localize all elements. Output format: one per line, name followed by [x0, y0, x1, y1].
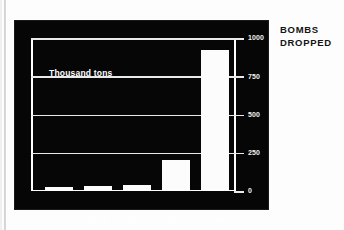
tick-stub-750 — [234, 76, 244, 78]
bar-1943 — [162, 160, 190, 190]
y-tick-label-1000: 1000 — [248, 34, 264, 41]
y-tick-label-750: 750 — [248, 73, 260, 80]
bar-1944 — [201, 50, 229, 190]
gridline-1000 — [31, 38, 234, 40]
bar-1940 — [45, 187, 73, 189]
plot-area — [31, 38, 234, 191]
bar-1942 — [123, 185, 151, 190]
chart-title: BOMBS DROPPED — [280, 24, 332, 50]
x-tick-label-1944: 1944 — [187, 215, 243, 224]
x-axis-line — [31, 190, 234, 192]
y-tick-label-500: 500 — [248, 111, 260, 118]
bar-1941 — [84, 186, 112, 189]
tick-stub-1000 — [234, 38, 244, 40]
tick-stub-250 — [234, 153, 244, 155]
page-edge-artifact — [0, 0, 2, 230]
y-tick-label-250: 250 — [248, 149, 260, 156]
unit-label: Thousand tons — [49, 68, 113, 78]
y-tick-label-0: 0 — [248, 187, 252, 194]
page-edge-shadow — [4, 0, 6, 230]
tick-stub-500 — [234, 115, 244, 117]
chart-panel: Thousand tons 1000 750 500 250 0 1940 19… — [15, 21, 268, 209]
tick-stub-0 — [234, 191, 244, 193]
